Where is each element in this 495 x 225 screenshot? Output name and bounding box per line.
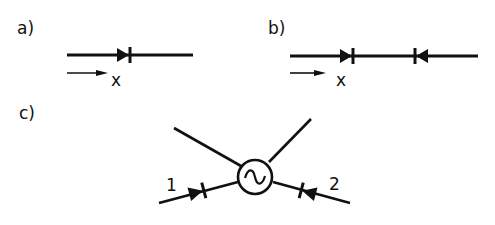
upper-right-line: [269, 119, 311, 162]
upper-left-line: [174, 128, 241, 166]
panel-a-label: a): [17, 18, 34, 38]
panel-c-label: c): [19, 103, 35, 123]
x-direction-arrow-icon: [290, 70, 326, 76]
diode-1-icon: [187, 183, 206, 202]
port-label-2: 2: [329, 174, 340, 194]
diode-right-icon: [340, 48, 353, 64]
panel-b: b) x: [268, 18, 478, 90]
diode-left-icon: [415, 48, 428, 64]
diode-icon: [117, 47, 130, 63]
port-label-1: 1: [166, 175, 177, 195]
ac-source-icon: [238, 160, 272, 194]
panel-a: a) x: [17, 18, 193, 90]
panel-b-axis-label: x: [336, 70, 346, 90]
panel-c: c) 1 2: [19, 103, 350, 203]
panel-a-axis-label: x: [111, 70, 121, 90]
x-direction-arrow-icon: [67, 70, 108, 76]
diode-2-icon: [299, 183, 318, 202]
panel-b-label: b): [268, 18, 285, 38]
diagram-canvas: a) x b) x c): [0, 0, 495, 225]
